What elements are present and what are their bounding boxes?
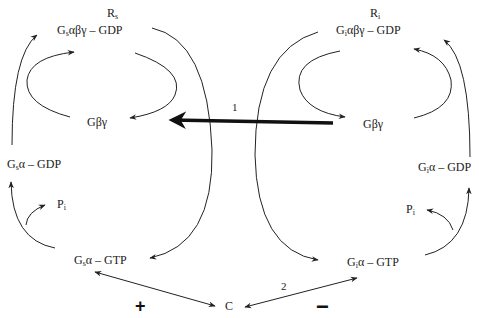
- left-alpha-gtp-label: Gsα – GTP: [74, 254, 127, 268]
- left-phosphate-label: Pi: [57, 198, 66, 212]
- left-pi-arc: [26, 205, 45, 225]
- left-heterotrimer-label: Gsαβγ – GDP: [57, 24, 123, 38]
- inhibitory-sign: −: [316, 296, 329, 318]
- g-protein-cycle-diagram: Rs Gsαβγ – GDP Gβγ Gsα – GDP Pi Gsα – GT…: [0, 0, 479, 318]
- right-inner-arc-right: [414, 49, 451, 118]
- left-outer-arc: [150, 28, 212, 258]
- right-outer-arc: [255, 32, 318, 260]
- bold-arrow-1: [172, 120, 333, 123]
- right-gtp-to-gdp-arc: [425, 188, 469, 255]
- arrow-1-label: 1: [232, 102, 238, 113]
- right-inner-arc-left: [299, 51, 345, 117]
- left-inner-arc-left: [27, 52, 74, 117]
- right-gtp-to-c-line: [245, 278, 357, 307]
- stimulatory-sign: +: [135, 297, 146, 315]
- right-alpha-gtp-label: Giα – GTP: [347, 256, 399, 270]
- left-gtp-to-c-line: [95, 272, 215, 306]
- left-receptor-label: Rs: [107, 7, 118, 21]
- right-beta-gamma-label: Gβγ: [363, 118, 383, 130]
- effector-label: C: [225, 300, 233, 312]
- right-phosphate-label: Pi: [406, 203, 415, 217]
- right-heterotrimer-label: Giαβγ – GDP: [336, 24, 401, 38]
- left-beta-gamma-label: Gβγ: [87, 116, 107, 128]
- right-pi-arc: [427, 210, 453, 230]
- left-far-arc: [12, 35, 37, 145]
- diagram-arrows: [0, 0, 479, 318]
- left-alpha-gdp-label: Gsα – GDP: [7, 158, 61, 172]
- arrow-2-label: 2: [281, 281, 287, 292]
- right-alpha-gdp-label: Giα – GDP: [418, 161, 471, 175]
- right-receptor-label: Ri: [370, 7, 380, 21]
- left-inner-arc-right: [130, 53, 177, 118]
- left-gtp-to-gdp-arc: [11, 182, 55, 248]
